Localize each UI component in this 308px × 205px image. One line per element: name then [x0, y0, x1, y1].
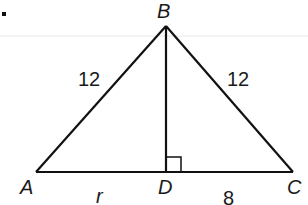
bullet-dot	[2, 12, 6, 16]
side-label-dc: 8	[223, 187, 234, 205]
vertex-label-b: B	[157, 0, 170, 22]
right-angle-marker	[166, 157, 181, 172]
side-bc	[166, 26, 293, 172]
vertex-label-d: D	[158, 176, 172, 198]
triangle-diagram: B A D C 12 12 r 8	[0, 0, 308, 205]
vertex-label-a: A	[19, 176, 33, 198]
side-label-ab: 12	[78, 68, 100, 90]
vertex-label-c: C	[287, 176, 302, 198]
side-ab	[36, 26, 166, 172]
side-label-bc: 12	[227, 68, 249, 90]
side-label-ad: r	[96, 185, 104, 205]
